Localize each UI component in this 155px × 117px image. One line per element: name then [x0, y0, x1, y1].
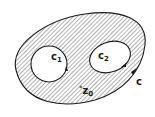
label-c: c [136, 77, 142, 87]
region-diagram: c1 c2 c °z0 [0, 0, 155, 117]
diagram-canvas [0, 0, 155, 117]
label-z0: °z0 [79, 86, 93, 98]
label-c1: c1 [51, 52, 62, 64]
label-c2: c2 [98, 51, 109, 63]
